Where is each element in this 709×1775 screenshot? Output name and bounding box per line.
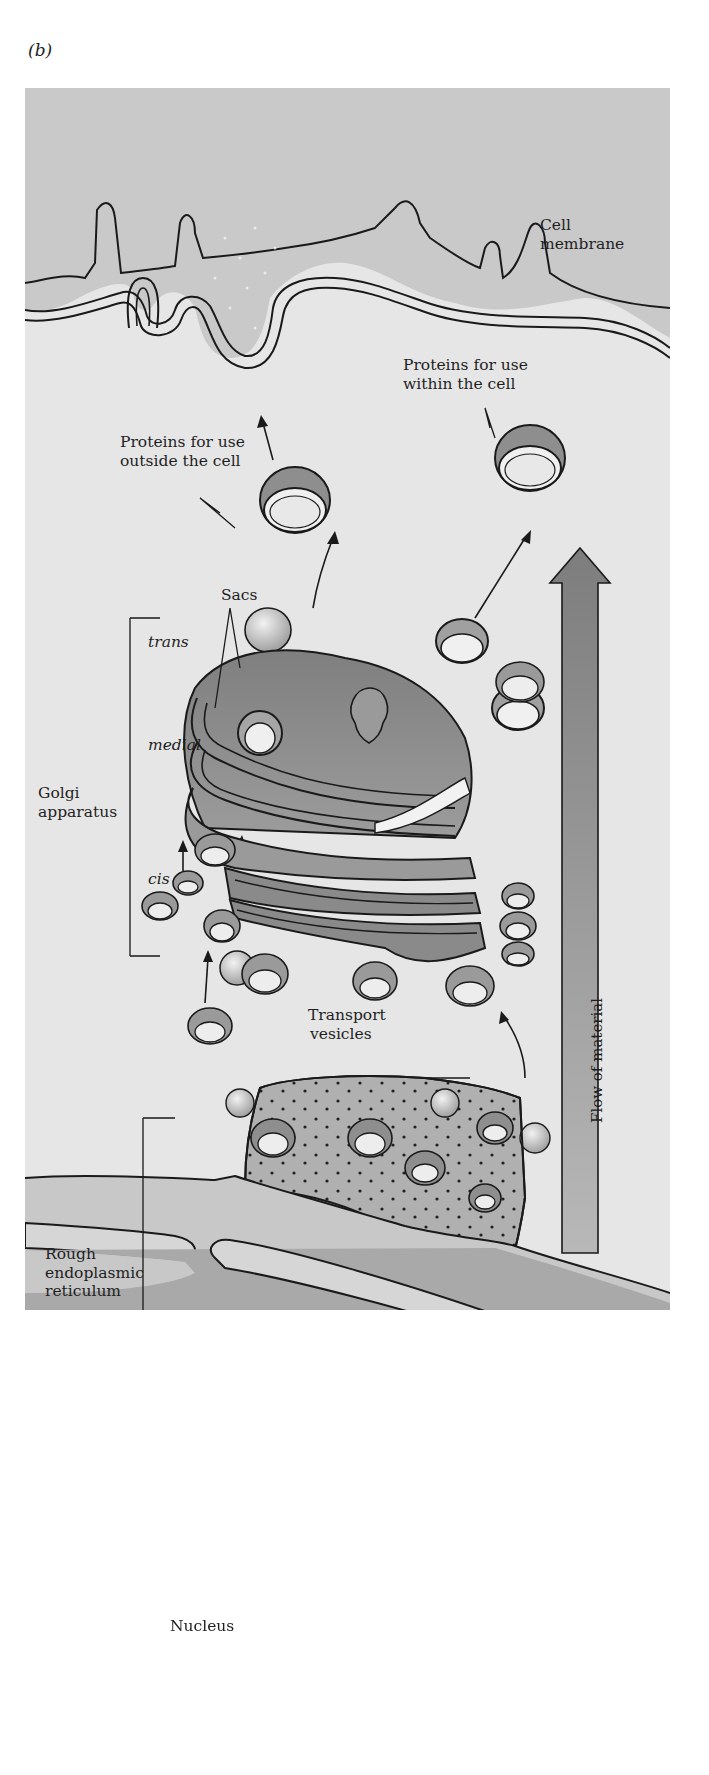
label-golgi-apparatus: Golgi apparatus (38, 784, 117, 821)
label-line: Proteins for use (403, 356, 528, 375)
label-medial: medial (148, 736, 201, 755)
label-line: Golgi (38, 784, 117, 803)
label-proteins-within: Proteins for use within the cell (403, 356, 528, 393)
golgi-secretion-diagram: Cell membrane Proteins for use outside t… (25, 88, 670, 1310)
label-flow-of-material: Flow of material (588, 998, 606, 1123)
internal-vesicle (495, 425, 565, 491)
panel-label: (b) (28, 40, 52, 60)
golgi-stack (142, 608, 544, 966)
label-line: Transport (308, 1006, 386, 1025)
label-line: apparatus (38, 803, 117, 822)
label-cell-membrane: Cell membrane (540, 216, 624, 253)
label-trans: trans (148, 633, 189, 652)
label-line: vesicles (308, 1025, 386, 1044)
label-nucleus: Nucleus (170, 1617, 234, 1636)
label-line: within the cell (403, 375, 528, 394)
label-cis: cis (148, 870, 170, 889)
label-rough-er: Rough endoplasmic reticulum (45, 1245, 144, 1301)
label-line: endoplasmic (45, 1264, 144, 1283)
secretory-vesicle (260, 467, 330, 533)
label-line: Proteins for use (120, 433, 245, 452)
label-line: membrane (540, 235, 624, 254)
label-proteins-outside: Proteins for use outside the cell (120, 433, 245, 470)
label-line: outside the cell (120, 452, 245, 471)
flow-of-material-arrow (550, 548, 610, 1253)
diagram-artwork (25, 88, 670, 1310)
label-sacs: Sacs (221, 586, 258, 605)
label-line: reticulum (45, 1282, 144, 1301)
label-transport-vesicles: Transport vesicles (308, 1006, 386, 1043)
label-line: Cell (540, 216, 624, 235)
label-line: Rough (45, 1245, 144, 1264)
